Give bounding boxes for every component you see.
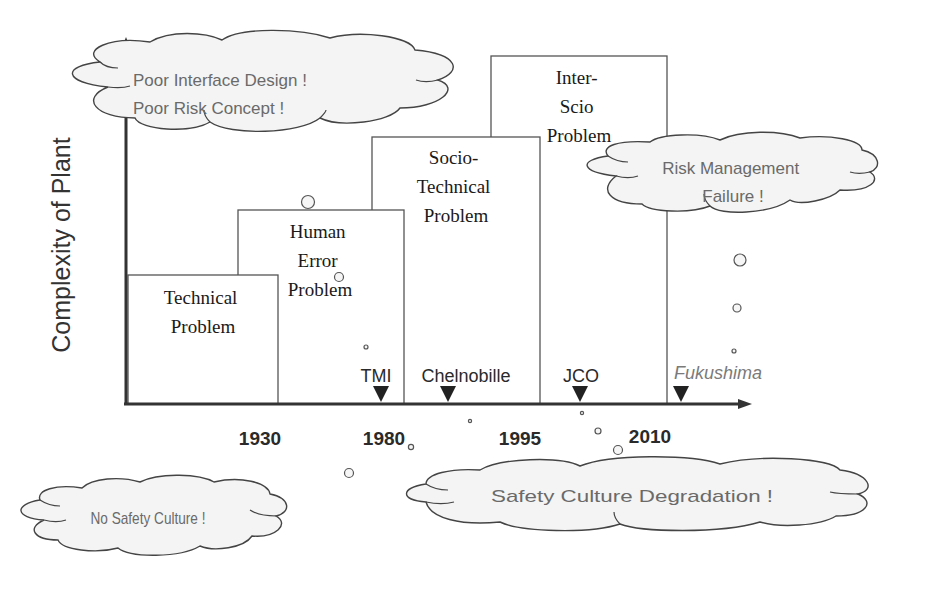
bubble-icon	[614, 446, 623, 455]
event-label-fukushima: Fukushima	[674, 363, 762, 383]
x-tick-1995: 1995	[499, 428, 542, 449]
cloud-text-bottom-right: Safety Culture Degradation !	[491, 487, 773, 506]
bubble-icon	[302, 196, 315, 209]
cloud-poor-interface-design: Poor Interface Design ! Poor Risk Concep…	[72, 30, 453, 131]
event-label-tmi: TMI	[361, 366, 392, 386]
bubble-icon	[364, 345, 368, 349]
y-axis-label: Complexity of Plant	[47, 137, 75, 352]
bubble-icon	[580, 411, 583, 414]
x-axis-ticks: 1930 1980 1995 2010	[239, 426, 671, 449]
x-tick-2010: 2010	[629, 426, 671, 447]
cloud-safety-culture-degradation: Safety Culture Degradation !	[407, 457, 869, 531]
bubble-icon	[335, 273, 344, 282]
bubble-icon	[468, 419, 471, 422]
safety-evolution-diagram: Technical Problem Human Error Problem So…	[0, 0, 952, 590]
bubble-icon	[595, 428, 601, 434]
x-tick-1980: 1980	[363, 428, 405, 449]
cloud-no-safety-culture: No Safety Culture !	[21, 475, 287, 555]
bubble-icon	[345, 469, 354, 478]
cloud-text-bottom-left: No Safety Culture !	[91, 509, 206, 528]
x-axis-arrow-icon	[738, 399, 752, 409]
event-label-chernobyl: Chelnobille	[421, 366, 510, 386]
x-tick-1930: 1930	[239, 428, 281, 449]
bubble-icon	[732, 349, 736, 353]
bubble-icon	[408, 444, 413, 449]
bubble-icon	[734, 254, 746, 266]
cloud-risk-management-failure: Risk Management Failure !	[587, 132, 877, 212]
event-marker-fukushima-icon	[673, 386, 689, 402]
event-label-jco: JCO	[563, 366, 599, 386]
bubble-icon	[733, 304, 741, 312]
